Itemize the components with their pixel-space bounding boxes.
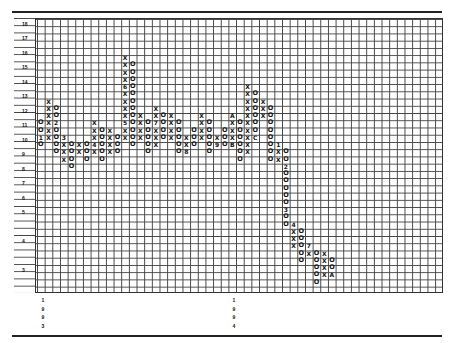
x-box: X [91,119,99,126]
o-box: O [175,148,183,155]
y-tick-label: 3 [22,267,25,273]
x-box: X [121,76,129,83]
x-box: X [198,127,206,134]
x-box: X [305,250,313,257]
x-box: X [60,148,68,155]
o-box: O [236,156,244,163]
x-box: X [45,112,53,119]
x-box: X [244,105,252,112]
x-box: X [45,98,53,105]
y-tick-label: 15 [22,64,28,70]
x-box: X [137,119,145,126]
x-box: X [244,90,252,97]
x-box: X [75,148,83,155]
x-box: X [121,127,129,134]
o-box: O [297,257,305,264]
o-box: O [114,148,122,155]
month-marker: 5 [121,119,129,126]
x-box: X [244,134,252,141]
x-box: X [198,112,206,119]
bottom-rule [12,335,442,337]
x-box: X [167,134,175,141]
year-digit: 9 [231,313,237,322]
x-box: X [290,228,298,235]
x-box: X [244,119,252,126]
year-label-1993: 1 9 9 3 [40,296,46,330]
x-box: X [152,127,160,134]
x-box: X [244,112,252,119]
x-box: X [45,105,53,112]
x-box: X [213,134,221,141]
o-box: O [282,156,290,163]
x-box: X [75,141,83,148]
o-box: O [282,221,290,228]
x-box: X [106,134,114,141]
x-box: X [244,98,252,105]
x-box: X [229,119,237,126]
month-marker: 4 [91,141,99,148]
x-box: X [121,105,129,112]
x-box: X [244,148,252,155]
y-tick-label: 8 [22,166,25,172]
x-box: X [229,134,237,141]
month-marker: 1 [274,141,282,148]
x-box: X [91,127,99,134]
x-box: X [106,148,114,155]
x-box: X [60,141,68,148]
x-box: X [167,112,175,119]
x-box: X [244,83,252,90]
x-box: X [121,61,129,68]
o-box: O [267,156,275,163]
x-box: X [320,271,328,278]
x-box: X [290,242,298,249]
y-tick-label: 4 [22,238,25,244]
month-marker: 4 [290,221,298,228]
o-box: O [251,127,259,134]
x-box: X [320,264,328,271]
top-rule [12,11,442,13]
month-marker: 9 [213,141,221,148]
x-box: X [152,105,160,112]
y-tick-label: 7 [22,180,25,186]
y-tick-label: 5 [22,209,25,215]
year-label-1994: 1 9 9 4 [231,296,237,330]
x-box: X [152,112,160,119]
o-box: O [144,148,152,155]
x-box: X [121,134,129,141]
y-tick-label: 11 [22,122,27,128]
x-box: X [121,90,129,97]
y-tick-label: 13 [22,93,28,99]
month-marker: 6 [121,83,129,90]
x-box: X [259,105,267,112]
y-tick-label: 16 [22,50,28,56]
y-axis-label-column [14,18,36,293]
o-box: O [160,134,168,141]
o-box: O [282,199,290,206]
x-box: X [91,148,99,155]
o-box: O [52,112,60,119]
y-tick-label: 17 [22,35,28,41]
o-box: O [313,279,321,286]
year-digit: 9 [40,313,46,322]
year-digit: 3 [40,322,46,331]
x-box: X [274,156,282,163]
year-digit: 1 [40,296,46,305]
y-tick-label: 12 [22,108,28,114]
x-box: X [137,112,145,119]
x-box: X [259,112,267,119]
x-box: X [121,69,129,76]
x-box: X [183,141,191,148]
x-box: X [45,127,53,134]
x-box: X [320,257,328,264]
o-box: O [83,156,91,163]
x-box: X [167,127,175,134]
month-marker: B [229,141,237,148]
o-box: O [37,127,45,134]
month-marker: 3 [60,134,68,141]
x-box: X [121,112,129,119]
o-box: O [190,141,198,148]
month-marker: A [328,271,336,278]
o-box: O [37,141,45,148]
month-marker: C [251,134,259,141]
o-box: O [129,141,137,148]
